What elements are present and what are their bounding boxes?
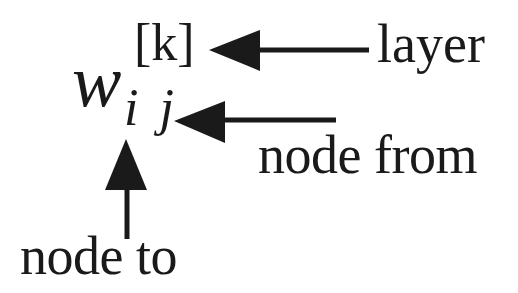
layer-arrow-icon	[209, 30, 369, 71]
weight-notation-diagram: w [k] i j layer node from node to	[0, 0, 518, 293]
node-to-arrow-icon	[105, 139, 147, 239]
node-from-arrow-icon	[174, 101, 336, 143]
arrows-layer	[0, 0, 518, 293]
